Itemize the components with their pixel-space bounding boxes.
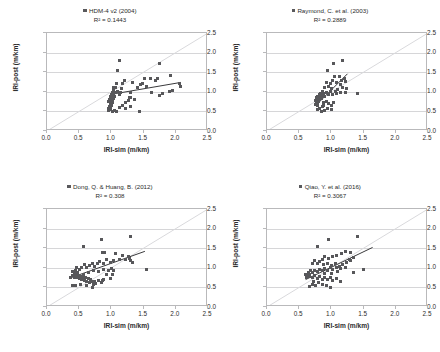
data-point [316, 245, 319, 248]
data-point [313, 259, 316, 262]
x-tick-label: 0.5 [286, 310, 310, 317]
data-point [352, 256, 355, 259]
y-tick-mark [263, 247, 266, 248]
data-point [323, 95, 326, 98]
y-tick-label: 1.0 [190, 87, 216, 94]
data-point [115, 110, 118, 113]
x-tick-label: 1.0 [318, 310, 342, 317]
data-point [325, 91, 328, 94]
y-tick-label: 0.5 [190, 283, 216, 290]
data-point [335, 254, 338, 257]
y-tick-label: 0.5 [190, 107, 216, 114]
data-point [93, 265, 96, 268]
data-point [114, 252, 117, 255]
data-point [154, 79, 157, 82]
y-tick-label: 1.5 [410, 68, 436, 75]
data-point [335, 277, 338, 280]
chart-panel-0: HDM-4 v2 (2004) R² = 0.1443 IRI-sim (m/k… [0, 0, 220, 176]
x-tick-mark [46, 306, 47, 309]
x-tick-label: 2.0 [383, 134, 407, 141]
data-point [100, 238, 103, 241]
y-tick-label: 2.0 [410, 224, 436, 231]
y-axis-title-3: IRI-post (m/km) [232, 199, 239, 289]
data-point [83, 263, 86, 266]
data-point [105, 273, 108, 276]
y-axis-title-0: IRI-post (m/km) [12, 23, 19, 113]
data-point [101, 279, 104, 282]
plot-area-2 [46, 208, 207, 306]
data-point [121, 254, 124, 257]
data-point [317, 281, 320, 284]
data-point [326, 69, 329, 72]
data-point [145, 85, 148, 88]
x-tick-mark [395, 306, 396, 309]
data-point [118, 258, 121, 261]
y-tick-label: 1.0 [190, 263, 216, 270]
y-tick-label: 1.5 [410, 244, 436, 251]
x-axis-title-2: IRI-sim (m/km) [46, 322, 207, 329]
y-axis-0 [0, 0, 46, 176]
data-point [129, 96, 132, 99]
chart-panel-3: Qiao, Y. et al. (2016) R² = 0.3067 IRI-s… [220, 176, 440, 352]
data-point [334, 262, 337, 265]
y-tick-label: 0.5 [410, 107, 436, 114]
data-point [313, 269, 316, 272]
data-point [312, 280, 315, 283]
data-point [335, 81, 338, 84]
data-point [145, 268, 148, 271]
x-tick-mark [298, 130, 299, 133]
y-tick-mark [43, 32, 46, 33]
data-point [116, 69, 119, 72]
x-tick-mark [78, 130, 79, 133]
data-point [109, 261, 112, 264]
data-point [124, 107, 127, 110]
x-tick-mark [427, 306, 428, 309]
data-point [344, 80, 347, 83]
x-tick-label: 2.5 [195, 310, 219, 317]
x-tick-mark [78, 306, 79, 309]
data-point [129, 91, 132, 94]
data-point [91, 262, 94, 265]
x-tick-label: 2.0 [383, 310, 407, 317]
y-tick-label: 2.5 [410, 29, 436, 36]
data-point [314, 284, 317, 287]
data-point [331, 279, 334, 282]
data-point [330, 108, 333, 111]
data-point [339, 267, 342, 270]
data-point [103, 251, 106, 254]
data-point [320, 110, 323, 113]
x-tick-mark [143, 306, 144, 309]
plot-area-1 [266, 32, 427, 130]
y-tick-mark [43, 247, 46, 248]
data-point [96, 262, 99, 265]
y-tick-label: 2.0 [190, 224, 216, 231]
data-point [79, 283, 82, 286]
y-axis-3 [220, 176, 266, 352]
data-point [323, 255, 326, 258]
x-tick-mark [330, 130, 331, 133]
data-point [327, 257, 330, 260]
legend-label-1: Raymond, C. et al. (2003) [297, 7, 368, 14]
chart-panel-1: Raymond, C. et al. (2003) R² = 0.2889 IR… [220, 0, 440, 176]
x-tick-mark [110, 130, 111, 133]
data-point [112, 259, 115, 262]
x-tick-label: 0.5 [66, 134, 90, 141]
data-point [82, 273, 85, 276]
x-axis-title-3: IRI-sim (m/km) [266, 322, 427, 329]
x-tick-mark [266, 130, 267, 133]
y-tick-label: 0.5 [410, 283, 436, 290]
data-point [124, 101, 127, 104]
data-point [136, 86, 139, 89]
data-point [329, 266, 332, 269]
x-tick-mark [207, 130, 208, 133]
data-point [318, 268, 321, 271]
data-point [316, 108, 319, 111]
legend-label-0: HDM-4 v2 (2004) [89, 7, 136, 14]
data-point [327, 238, 330, 241]
y-tick-mark [263, 208, 266, 209]
y-axis-1 [220, 0, 266, 176]
data-point [179, 85, 182, 88]
data-point [316, 262, 319, 265]
x-tick-label: 1.0 [318, 134, 342, 141]
y-tick-label: 2.0 [190, 48, 216, 55]
